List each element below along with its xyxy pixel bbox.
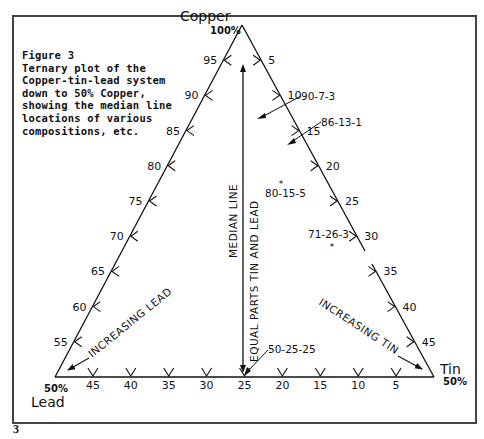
bottom-tick-mark: [277, 368, 287, 376]
bottom-tick-mark: [391, 368, 401, 376]
right-tick-label: 5: [268, 54, 275, 67]
ternary-plot: 959085807570656055 51015202530354045 454…: [0, 0, 484, 439]
left-tick-label: 70: [110, 230, 124, 243]
svg-text:90-7-3: 90-7-3: [301, 90, 335, 102]
bottom-tick-label: 40: [124, 379, 138, 392]
median-line-label: MEDIAN LINE: [227, 184, 239, 258]
data-point-80-15-5: * 80-15-5: [265, 179, 306, 199]
svg-text:80-15-5: 80-15-5: [265, 187, 306, 199]
vertex-tin-pct: 50%: [443, 376, 467, 387]
vertex-copper-pct: 100%: [210, 25, 241, 36]
vertex-lead-name: Lead: [31, 394, 65, 410]
equal-parts-label: EQUAL PARTS TIN AND LEAD: [248, 200, 260, 362]
bottom-tick-label: 35: [162, 379, 176, 392]
right-tick-label: 25: [345, 195, 359, 208]
right-edge-lower: [372, 264, 434, 377]
left-tick-label: 85: [166, 125, 180, 138]
bottom-tick-mark: [315, 368, 325, 376]
right-tick-label: 40: [403, 301, 417, 314]
median-arrow-up-icon: [240, 64, 246, 72]
right-tick-label: 20: [326, 160, 340, 173]
vertex-copper-name: Copper: [180, 8, 231, 24]
bottom-tick-label: 25: [238, 379, 252, 392]
svg-text:71-26-3: 71-26-3: [308, 228, 349, 240]
increasing-lead-label: INCREASING LEAD: [86, 285, 174, 360]
bottom-edge-tick-labels: 45403530252015105: [86, 379, 400, 392]
plate-number: 3: [13, 422, 19, 437]
left-tick-label: 75: [129, 195, 143, 208]
bottom-tick-label: 45: [86, 379, 100, 392]
left-tick-label: 60: [72, 301, 86, 314]
bottom-tick-mark: [164, 368, 174, 376]
right-edge-upper: [242, 25, 365, 251]
vertex-lead-pct: 50%: [44, 383, 68, 394]
bottom-tick-label: 15: [313, 379, 327, 392]
bottom-tick-mark: [202, 368, 212, 376]
svg-text:50-25-25: 50-25-25: [268, 343, 316, 355]
left-tick-label: 80: [147, 160, 161, 173]
right-edge-tick-labels: 51015202530354045: [268, 54, 436, 349]
bottom-tick-mark: [88, 368, 98, 376]
bottom-tick-label: 20: [275, 379, 289, 392]
vertex-tin-name: Tin: [439, 361, 461, 377]
bottom-tick-label: 30: [200, 379, 214, 392]
right-tick-label: 30: [364, 230, 378, 243]
right-tick-label: 45: [422, 336, 436, 349]
right-tick-label: 10: [287, 89, 301, 102]
bottom-tick-label: 10: [351, 379, 365, 392]
left-edge-tick-labels: 959085807570656055: [54, 54, 218, 349]
increasing-tin-arrow: [398, 356, 422, 369]
point-marker-icon: [287, 138, 296, 145]
point-marker-icon: [257, 113, 266, 119]
left-tick-label: 65: [91, 265, 105, 278]
left-tick-label: 90: [185, 89, 199, 102]
increasing-lead-arrow: [68, 358, 89, 370]
median-arrow-down-icon: [240, 365, 246, 373]
left-tick-label: 95: [203, 54, 217, 67]
increasing-tin-label: INCREASING TIN: [317, 296, 401, 357]
triangle-outline: [55, 25, 434, 377]
bottom-tick-label: 5: [393, 379, 400, 392]
bottom-tick-mark: [353, 368, 363, 376]
data-point-71-26-3: 71-26-3 *: [308, 228, 349, 252]
bottom-tick-mark: [126, 368, 136, 376]
asterisk-marker-icon: *: [330, 242, 335, 252]
svg-text:86-13-1: 86-13-1: [321, 116, 362, 128]
left-tick-label: 55: [54, 336, 68, 349]
right-tick-label: 35: [383, 265, 397, 278]
left-edge: [55, 25, 242, 377]
